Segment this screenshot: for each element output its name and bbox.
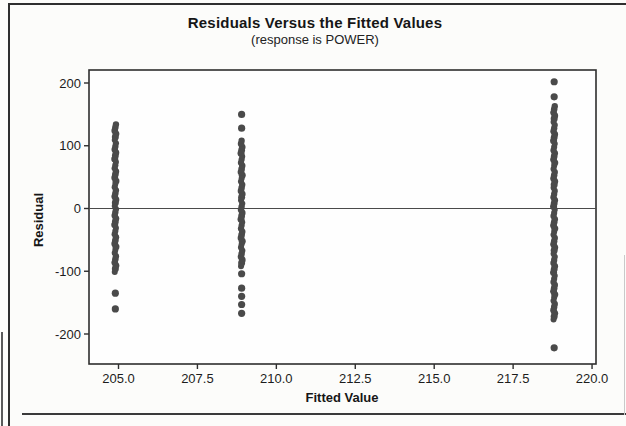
x-axis-title: Fitted Value [242, 390, 442, 405]
x-tick-label: 217.5 [497, 371, 530, 386]
data-point-outlier [551, 78, 558, 85]
data-point-outlier [112, 290, 119, 297]
data-point-outlier [238, 111, 245, 118]
data-point-outlier [551, 344, 558, 351]
data-point-outlier [238, 285, 245, 292]
plot-frame [89, 70, 596, 364]
residuals-vs-fitted-plot: 2001000-100-200205.0207.5210.0212.5215.0… [0, 0, 626, 426]
y-tick-label: -100 [55, 264, 81, 279]
x-tick-label: 205.0 [102, 371, 135, 386]
data-point [113, 121, 119, 127]
y-tick-label: 0 [74, 201, 81, 216]
data-point-outlier [238, 293, 245, 300]
data-point-outlier [238, 270, 245, 277]
data-point [552, 103, 558, 109]
data-point-outlier [238, 125, 245, 132]
x-tick-label: 207.5 [181, 371, 214, 386]
data-point-outlier [112, 305, 119, 312]
x-tick-label: 215.0 [418, 371, 451, 386]
data-point-outlier [238, 301, 245, 308]
y-tick-label: 100 [59, 138, 81, 153]
scanned-chart-page: Residuals Versus the Fitted Values (resp… [0, 0, 626, 426]
x-tick-label: 212.5 [339, 371, 372, 386]
y-axis-title: Residual [31, 120, 47, 320]
data-point [238, 138, 244, 144]
x-tick-label: 210.0 [260, 371, 293, 386]
x-tick-label: 220.0 [576, 371, 609, 386]
data-point-outlier [238, 310, 245, 317]
y-tick-label: -200 [55, 327, 81, 342]
y-tick-label: 200 [59, 76, 81, 91]
data-point-outlier [551, 93, 558, 100]
